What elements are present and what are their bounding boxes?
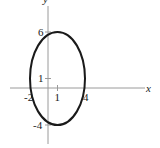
tick-label-x-4: 4 [83,91,89,103]
y-axis-label: y [42,0,48,5]
tick-label-x-1: 1 [55,91,61,103]
tick-label-y-6: 6 [38,26,44,38]
x-axis-label: x [145,82,151,94]
tick-label-y-neg4: -4 [33,119,43,131]
tick-label-x-neg2: -2 [24,91,33,103]
ellipse-graph: x y -2 1 4 6 1 -4 [0,0,160,148]
tick-label-y-1: 1 [38,72,44,84]
